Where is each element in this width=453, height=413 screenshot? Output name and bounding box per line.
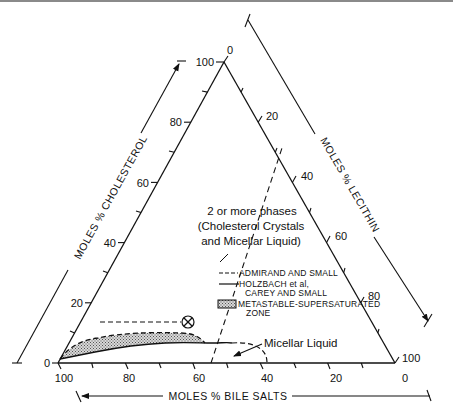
svg-text:40: 40: [301, 170, 313, 182]
svg-text:40: 40: [261, 372, 273, 384]
legend-item-solid: HOLZBACH et al, CAREY AND SMALL: [219, 279, 327, 298]
micellar-liquid-arrow: [234, 344, 262, 356]
svg-text:0: 0: [227, 44, 233, 56]
svg-text:100: 100: [196, 56, 214, 68]
lecithin-axis-title: MOLES % LECITHIN: [318, 135, 382, 234]
svg-text:0: 0: [402, 372, 408, 384]
bile-salts-tick-labels: 100 80 60 40 20 0: [55, 372, 408, 384]
svg-text:ADMIRAND AND SMALL: ADMIRAND AND SMALL: [239, 268, 338, 278]
svg-text:ZONE: ZONE: [246, 308, 271, 318]
bile-salts-ticks: [58, 363, 363, 369]
svg-text:60: 60: [193, 372, 205, 384]
micellar-liquid-label: Micellar Liquid: [264, 337, 338, 349]
svg-text:60: 60: [335, 230, 347, 242]
svg-text:CAREY AND SMALL: CAREY AND SMALL: [245, 288, 327, 298]
micellar-limit-dashed: [232, 343, 267, 363]
svg-text:and Micellar Liquid): and Micellar Liquid): [201, 235, 301, 247]
svg-text:60: 60: [137, 177, 149, 189]
svg-text:20: 20: [266, 110, 278, 122]
svg-text:40: 40: [104, 237, 116, 249]
cholesterol-ticks: [52, 62, 224, 363]
svg-text:100: 100: [55, 372, 73, 384]
two-phase-region-label: 2 or more phases (Cholesterol Crystals a…: [198, 205, 305, 247]
svg-text:80: 80: [123, 372, 135, 384]
svg-text:20: 20: [71, 297, 83, 309]
svg-text:0: 0: [44, 357, 50, 369]
legend-item-stippled: METASTABLE-SUPERSATURATED ZONE: [218, 299, 380, 318]
legend-item-dashed: ADMIRAND AND SMALL: [219, 268, 338, 278]
tie-line-to-lecithin-edge: [211, 148, 282, 363]
svg-text:2 or more phases: 2 or more phases: [207, 205, 297, 217]
svg-text:(Cholesterol Crystals: (Cholesterol Crystals: [198, 220, 305, 232]
two-phase-pointer: [220, 254, 228, 262]
ternary-diagram-svg: 0 20 40 60 80 100 0 20 40 60 80: [0, 0, 453, 413]
circled-x-marker: [182, 316, 194, 328]
ternary-diagram-figure: 0 20 40 60 80 100 0 20 40 60 80: [0, 0, 453, 413]
bile-salts-axis-title: MOLES % BILE SALTS: [168, 390, 287, 402]
svg-text:100: 100: [402, 352, 420, 364]
svg-text:20: 20: [330, 372, 342, 384]
svg-text:80: 80: [170, 116, 182, 128]
